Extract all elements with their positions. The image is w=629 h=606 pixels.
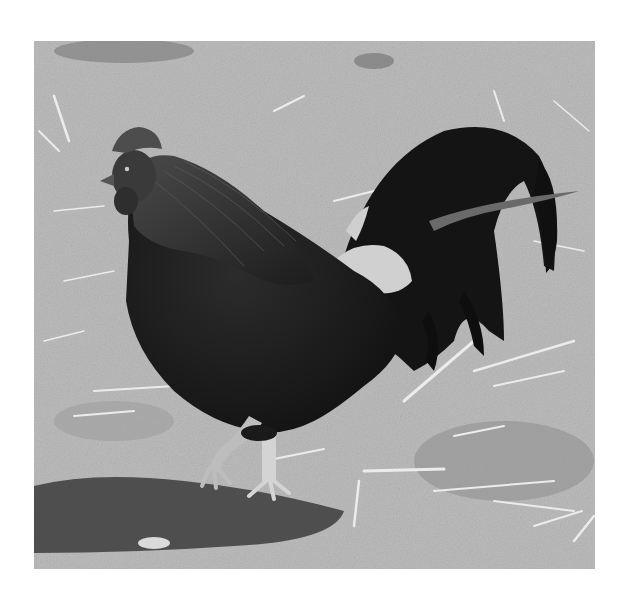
rooster-thigh bbox=[241, 425, 277, 441]
rooster-eye bbox=[125, 167, 129, 171]
rooster-wattle bbox=[114, 187, 138, 215]
rooster-photo bbox=[34, 41, 595, 569]
pebble bbox=[138, 537, 170, 549]
rooster-illustration bbox=[34, 41, 595, 569]
